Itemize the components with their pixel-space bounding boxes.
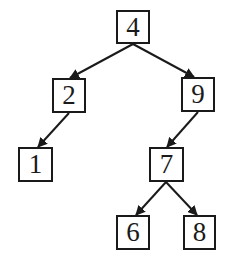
edge-4-9 <box>133 44 194 77</box>
tree-node-2: 2 <box>52 78 86 113</box>
tree-node-9: 9 <box>181 77 215 112</box>
edge-4-2 <box>70 44 133 78</box>
node-label: 9 <box>191 81 205 108</box>
edge-2-1 <box>38 113 69 147</box>
node-label: 1 <box>29 151 43 178</box>
tree-diagram: 4 2 9 1 7 6 8 <box>0 0 226 261</box>
tree-node-7: 7 <box>149 147 184 182</box>
tree-node-8: 8 <box>183 215 216 250</box>
tree-node-4: 4 <box>116 10 150 44</box>
node-label: 7 <box>160 151 174 178</box>
tree-node-1: 1 <box>18 147 53 182</box>
tree-node-6: 6 <box>116 215 150 250</box>
node-label: 8 <box>193 219 207 246</box>
node-label: 4 <box>126 14 140 41</box>
edge-7-6 <box>136 182 166 215</box>
node-label: 2 <box>62 82 76 109</box>
edge-7-8 <box>166 182 197 215</box>
edge-9-7 <box>167 112 198 147</box>
node-label: 6 <box>126 219 140 246</box>
